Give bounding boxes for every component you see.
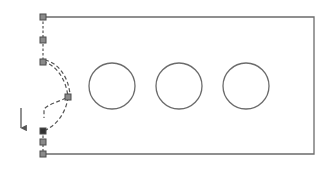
circle-1 <box>89 63 135 109</box>
circle-3 <box>223 63 269 109</box>
swing-arc-inner-top <box>45 60 70 94</box>
circle-2 <box>156 63 202 109</box>
node-upper <box>40 37 46 43</box>
node-swing <box>65 94 71 100</box>
anchor-nodes <box>40 14 71 157</box>
diagram-canvas <box>0 0 330 174</box>
node-hinge-top <box>40 59 46 65</box>
swing-arc-lower <box>43 97 68 131</box>
circle-holes <box>89 63 269 109</box>
node-lower <box>40 139 46 145</box>
panel-outline <box>43 17 314 154</box>
node-hinge-bottom <box>40 128 46 134</box>
swing-arc-outer-top <box>43 62 68 97</box>
swing-arc-inner-return <box>44 98 66 118</box>
node-bottom-corner <box>40 151 46 157</box>
node-top-corner <box>40 14 46 20</box>
